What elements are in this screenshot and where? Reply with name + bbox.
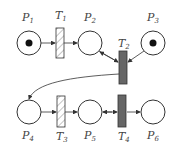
place-p5	[78, 100, 102, 124]
transition-t4	[118, 95, 126, 127]
token-p1	[26, 40, 33, 47]
place-p6	[141, 100, 165, 124]
label-p5: P5	[83, 129, 96, 143]
token-p3	[150, 40, 157, 47]
label-p1: P1	[21, 11, 34, 25]
transition-t3	[57, 96, 65, 127]
label-p2: P2	[83, 11, 96, 25]
label-p3: P3	[146, 11, 159, 25]
label-t2: T2	[118, 37, 130, 51]
place-p2	[78, 31, 102, 55]
label-p4: P4	[21, 129, 34, 143]
label-p6: P6	[146, 129, 159, 143]
label-t3: T3	[56, 130, 68, 144]
petri-net-diagram: P1 T1 P2 P3 T2 P4 T3 P5 T4 P6	[0, 0, 175, 151]
place-p4	[17, 100, 41, 124]
transition-t1	[56, 28, 64, 58]
label-t1: T1	[55, 9, 67, 23]
transition-t2	[119, 51, 127, 84]
label-t4: T4	[118, 130, 130, 144]
